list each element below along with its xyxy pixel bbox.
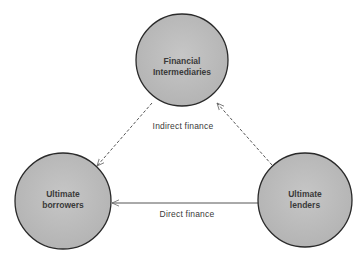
label-line2: borrowers xyxy=(42,200,84,211)
label-financial-intermediaries: Financial Intermediaries xyxy=(153,56,211,78)
label-line1: Ultimate xyxy=(288,189,322,200)
indirect-finance-arrow-lenders-to-intermediaries xyxy=(217,103,272,165)
label-line1: Financial xyxy=(153,56,211,67)
direct-finance-label: Direct finance xyxy=(160,209,215,219)
label-ultimate-borrowers: Ultimate borrowers xyxy=(42,189,84,211)
label-ultimate-lenders: Ultimate lenders xyxy=(288,189,322,211)
label-line1: Ultimate xyxy=(42,189,84,200)
indirect-finance-arrow-intermediaries-to-borrowers xyxy=(97,103,152,166)
label-line2: lenders xyxy=(288,200,322,211)
label-line2: Intermediaries xyxy=(153,67,211,78)
indirect-finance-label: Indirect finance xyxy=(153,121,214,131)
flow-of-funds-diagram xyxy=(0,0,363,264)
